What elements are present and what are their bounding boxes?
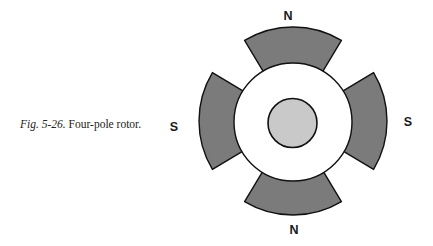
rotor-diagram: N S N S — [0, 0, 433, 246]
pole-label-bottom: N — [289, 223, 298, 237]
pole-label-left: S — [170, 120, 178, 134]
rotor-hub — [268, 99, 317, 148]
pole-label-right: S — [404, 115, 412, 129]
pole-label-top: N — [283, 9, 292, 23]
